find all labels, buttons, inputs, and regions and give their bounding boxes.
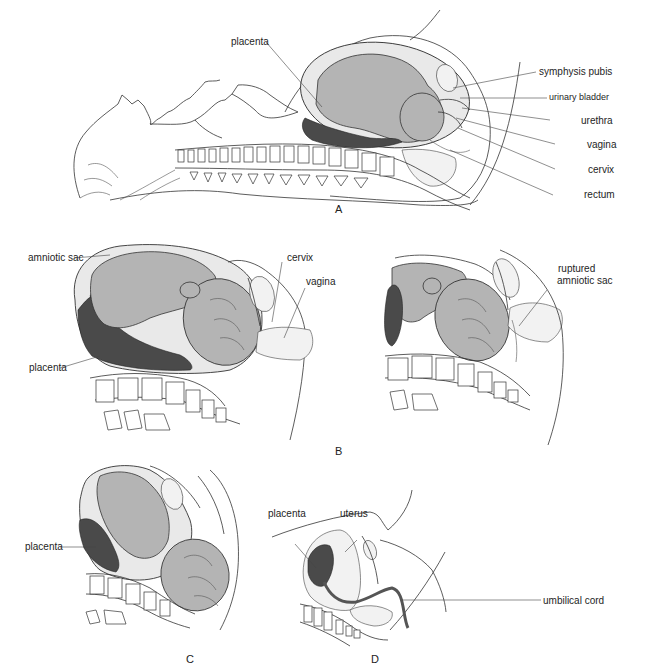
label-a-vagina: vagina <box>587 139 616 150</box>
label-b-placenta: placenta <box>29 362 67 373</box>
label-b-amniotic-sac: amniotic sac <box>28 252 84 263</box>
label-a-symphysis-pubis: symphysis pubis <box>539 66 612 77</box>
label-b-ruptured-amniotic-sac: amniotic sac <box>557 275 613 286</box>
label-a-placenta: placenta <box>231 36 269 47</box>
label-d-placenta: placenta <box>268 508 306 519</box>
panel-a-illustration <box>74 10 520 210</box>
label-b-ruptured: ruptured <box>558 263 595 274</box>
panel-letter-d: D <box>371 653 379 665</box>
label-b-cervix: cervix <box>287 252 313 263</box>
panel-letter-a: A <box>335 203 342 215</box>
panel-c-illustration <box>79 466 238 630</box>
label-a-rectum: rectum <box>584 189 615 200</box>
panel-letter-b: B <box>335 445 342 457</box>
label-a-urinary-bladder: urinary bladder <box>549 92 609 103</box>
panel-b-right-illustration <box>385 250 564 445</box>
panel-b-left-illustration <box>74 245 313 440</box>
label-a-urethra: urethra <box>581 115 613 126</box>
label-c-placenta: placenta <box>25 541 63 552</box>
label-d-uterus: uterus <box>340 508 368 519</box>
label-d-umbilical-cord: umbilical cord <box>543 595 604 606</box>
panel-letter-c: C <box>186 653 194 665</box>
label-a-cervix: cervix <box>588 164 614 175</box>
label-b-vagina: vagina <box>306 276 335 287</box>
